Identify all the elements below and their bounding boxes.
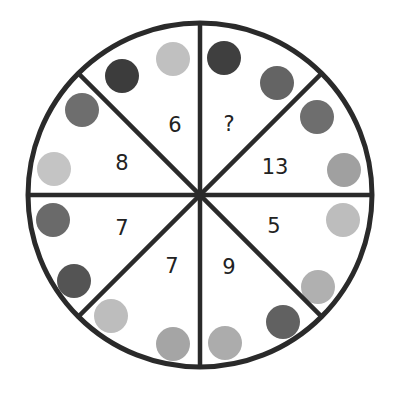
- dot: [105, 59, 139, 93]
- missing-number: ?: [223, 112, 234, 136]
- dot: [207, 41, 241, 75]
- segment-number: 6: [168, 113, 181, 137]
- segment-number: 9: [222, 255, 235, 279]
- number-wheel-puzzle: ?13597786: [0, 0, 394, 394]
- dot: [208, 326, 242, 360]
- dot: [300, 100, 334, 134]
- dot: [266, 305, 300, 339]
- segment-dividers: [28, 23, 372, 367]
- dot: [326, 203, 360, 237]
- segment-number: 8: [115, 151, 128, 175]
- dot: [65, 93, 99, 127]
- dot: [327, 153, 361, 187]
- dot: [156, 327, 190, 361]
- dot: [260, 66, 294, 100]
- segment-number: 7: [115, 216, 128, 240]
- segment-number: 7: [165, 254, 178, 278]
- dot: [94, 299, 128, 333]
- segment-number: 5: [267, 214, 280, 238]
- dot: [57, 264, 91, 298]
- segment-number: 13: [262, 155, 289, 179]
- dot: [37, 152, 71, 186]
- dot: [36, 203, 70, 237]
- dot: [156, 42, 190, 76]
